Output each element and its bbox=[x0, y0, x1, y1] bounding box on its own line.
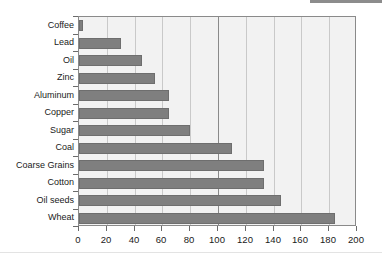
y-tick-label-aluminum: Aluminum bbox=[34, 90, 74, 100]
y-tick-label-lead: Lead bbox=[54, 37, 74, 47]
y-axis-tick bbox=[73, 16, 78, 17]
x-tick-label-140: 140 bbox=[258, 234, 288, 245]
y-axis-tick bbox=[73, 34, 78, 35]
x-tick-label-100: 100 bbox=[202, 234, 232, 245]
bar-oil-seeds bbox=[79, 195, 281, 206]
bar-row bbox=[79, 38, 356, 49]
y-axis-tick bbox=[73, 104, 78, 105]
bar-coarse-grains bbox=[79, 160, 264, 171]
bar-row bbox=[79, 90, 356, 101]
bar-coal bbox=[79, 143, 232, 154]
x-tick-label-40: 40 bbox=[119, 234, 149, 245]
bar-coffee bbox=[79, 20, 83, 31]
y-tick-label-sugar: Sugar bbox=[50, 125, 74, 135]
bar-cotton bbox=[79, 178, 264, 189]
bar-row bbox=[79, 55, 356, 66]
x-axis-tick-80 bbox=[189, 226, 190, 231]
bar-oil bbox=[79, 55, 142, 66]
y-axis-tick bbox=[73, 86, 78, 87]
plot-area bbox=[78, 16, 356, 226]
y-tick-label-cotton: Cotton bbox=[47, 177, 74, 187]
top-edge-strip bbox=[310, 0, 382, 3]
bar-row bbox=[79, 160, 356, 171]
bar-copper bbox=[79, 108, 169, 119]
x-axis-tick-60 bbox=[161, 226, 162, 231]
x-axis-tick-160 bbox=[300, 226, 301, 231]
bar-row bbox=[79, 73, 356, 84]
bar-chart-figure: CoffeeLeadOilZincAluminumCopperSugarCoal… bbox=[0, 0, 382, 265]
bar-row bbox=[79, 143, 356, 154]
bar-row bbox=[79, 178, 356, 189]
y-tick-label-coal: Coal bbox=[55, 142, 74, 152]
bar-row bbox=[79, 125, 356, 136]
x-axis-tick-40 bbox=[134, 226, 135, 231]
bar-row bbox=[79, 213, 356, 224]
x-tick-label-120: 120 bbox=[230, 234, 260, 245]
y-axis-tick bbox=[73, 51, 78, 52]
x-tick-label-200: 200 bbox=[341, 234, 371, 245]
bar-lead bbox=[79, 38, 121, 49]
bar-zinc bbox=[79, 73, 155, 84]
bar-row bbox=[79, 20, 356, 31]
bar-row bbox=[79, 108, 356, 119]
y-axis-tick bbox=[73, 174, 78, 175]
y-tick-label-oil-seeds: Oil seeds bbox=[36, 195, 74, 205]
y-tick-label-copper: Copper bbox=[44, 107, 74, 117]
bar-sugar bbox=[79, 125, 190, 136]
y-tick-label-oil: Oil bbox=[63, 55, 74, 65]
x-tick-label-60: 60 bbox=[146, 234, 176, 245]
x-tick-label-180: 180 bbox=[313, 234, 343, 245]
bar-wheat bbox=[79, 213, 335, 224]
page-divider-rule bbox=[0, 252, 382, 253]
bar-aluminum bbox=[79, 90, 169, 101]
x-axis-tick-100 bbox=[217, 226, 218, 231]
x-axis-tick-0 bbox=[78, 226, 79, 231]
y-axis-tick bbox=[73, 191, 78, 192]
x-axis-tick-120 bbox=[245, 226, 246, 231]
x-axis-tick-20 bbox=[106, 226, 107, 231]
y-axis-tick bbox=[73, 121, 78, 122]
y-axis-tick bbox=[73, 69, 78, 70]
bar-row bbox=[79, 195, 356, 206]
y-axis-tick bbox=[73, 139, 78, 140]
y-tick-label-zinc: Zinc bbox=[57, 72, 74, 82]
x-tick-label-160: 160 bbox=[285, 234, 315, 245]
y-tick-label-coffee: Coffee bbox=[48, 20, 74, 30]
x-axis-tick-200 bbox=[356, 226, 357, 231]
x-axis-tick-140 bbox=[273, 226, 274, 231]
x-tick-label-20: 20 bbox=[91, 234, 121, 245]
x-tick-label-0: 0 bbox=[63, 234, 93, 245]
y-tick-label-coarse-grains: Coarse Grains bbox=[16, 160, 74, 170]
y-tick-label-wheat: Wheat bbox=[48, 212, 74, 222]
x-axis-tick-180 bbox=[328, 226, 329, 231]
x-tick-label-80: 80 bbox=[174, 234, 204, 245]
y-axis-tick bbox=[73, 156, 78, 157]
y-axis-tick bbox=[73, 209, 78, 210]
